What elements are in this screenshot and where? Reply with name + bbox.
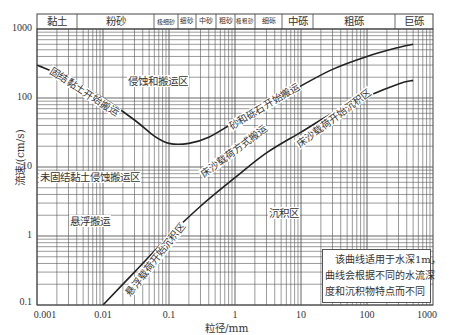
note-line-2: 曲线会根据不同的水流深: [325, 268, 428, 284]
band-fine-sand: 细砂: [178, 14, 196, 29]
band-medium-gravel: 中砾: [282, 14, 313, 29]
x-tick-100: 100: [345, 309, 389, 320]
x-tick-0.001: 0.001: [23, 309, 67, 320]
y-axis-label: 流速/(cm/s): [12, 123, 27, 193]
x-tick-10: 10: [279, 309, 323, 320]
x-tick-1000: 1000: [405, 309, 449, 320]
zone-unconsolidated-clay: 未固结黏土侵蚀搬运区: [39, 171, 141, 183]
note-line-1: 该曲线适用于水深1m，: [325, 252, 428, 268]
band-very-fine-sand: 极细砂: [154, 14, 178, 29]
band-very-coarse-sand: 极粗砂: [235, 14, 255, 29]
band-medium-sand: 中砂: [196, 14, 216, 29]
band-coarse-gravel: 粗砾: [313, 14, 395, 29]
note-line-3: 度和沉积物特点而不同: [325, 284, 428, 300]
annotation-note: 该曲线适用于水深1m， 曲线会根据不同的水流深 度和沉积物特点而不同: [322, 249, 431, 303]
x-tick-1: 1: [213, 309, 257, 320]
band-fine-gravel: 细砾: [255, 14, 282, 29]
x-tick-0.01: 0.01: [81, 309, 125, 320]
x-axis-label: 粒径/mm: [205, 320, 248, 335]
y-tick-1000: 1000: [4, 22, 32, 33]
zone-suspension-transport: 悬浮搬运: [69, 215, 111, 227]
band-coarse-sand: 粗砂: [216, 14, 235, 29]
y-tick-1: 1: [4, 229, 32, 240]
band-silt: 粉砂: [77, 14, 154, 29]
x-tick-0.1: 0.1: [147, 309, 191, 320]
zone-deposition: 沉积区: [268, 207, 300, 219]
zone-erosion-transport: 侵蚀和搬运区: [127, 75, 189, 87]
band-clay: 黏土: [37, 14, 77, 29]
y-tick-0.1: 0.1: [4, 296, 32, 307]
band-boulder: 巨砾: [395, 14, 433, 29]
y-tick-100: 100: [4, 91, 32, 102]
